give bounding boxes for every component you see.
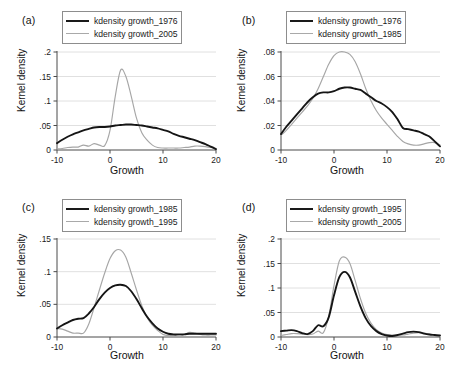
svg-text:-10: -10 bbox=[275, 342, 287, 352]
svg-text:.05: .05 bbox=[263, 308, 275, 318]
legend-line-swatch-light bbox=[290, 33, 313, 34]
svg-text:20: 20 bbox=[211, 342, 221, 352]
legend-label: kdensity growth_1985 bbox=[94, 204, 178, 214]
chart-panel-d: (d) kdensity growth_1995 kdensity growth… bbox=[224, 189, 448, 378]
svg-text:10: 10 bbox=[382, 155, 392, 165]
svg-text:.08: .08 bbox=[263, 47, 275, 57]
svg-text:.15: .15 bbox=[39, 234, 51, 244]
legend-label: kdensity growth_1995 bbox=[94, 217, 178, 227]
svg-text:0: 0 bbox=[46, 145, 51, 155]
svg-text:.02: .02 bbox=[263, 121, 275, 131]
legend-line-swatch-dark bbox=[66, 208, 89, 210]
svg-text:.05: .05 bbox=[39, 121, 51, 131]
legend-panel-c: kdensity growth_1985 kdensity growth_199… bbox=[62, 199, 182, 232]
svg-text:.2: .2 bbox=[268, 234, 275, 244]
svg-text:20: 20 bbox=[435, 155, 445, 165]
legend-line-swatch-light bbox=[66, 33, 89, 34]
svg-text:.1: .1 bbox=[44, 96, 51, 106]
svg-text:10: 10 bbox=[158, 155, 168, 165]
legend-entry: kdensity growth_1985 bbox=[66, 202, 177, 215]
plot-area-d: 0.05.1.15.2-1001020 bbox=[224, 233, 448, 353]
chart-panel-c: (c) kdensity growth_1985 kdensity growth… bbox=[0, 189, 224, 378]
legend-label: kdensity growth_1976 bbox=[318, 16, 402, 26]
plot-area-c: 0.05.1.15-1001020 bbox=[0, 233, 224, 353]
svg-text:.06: .06 bbox=[263, 72, 275, 82]
plot-area-a: 0.05.1.15.2-1001020 bbox=[0, 46, 224, 166]
svg-text:0: 0 bbox=[108, 342, 113, 352]
svg-text:0: 0 bbox=[332, 155, 337, 165]
plot-svg-c: 0.05.1.15-1001020 bbox=[0, 233, 224, 353]
legend-line-swatch-dark bbox=[290, 208, 313, 210]
chart-panel-b: (b) kdensity growth_1976 kdensity growth… bbox=[224, 0, 448, 189]
legend-entry: kdensity growth_1976 bbox=[290, 14, 401, 27]
svg-text:0: 0 bbox=[332, 342, 337, 352]
plot-svg-b: 0.02.04.06.08-1001020 bbox=[224, 46, 448, 166]
svg-text:10: 10 bbox=[382, 342, 392, 352]
svg-text:0: 0 bbox=[46, 332, 51, 342]
svg-text:.04: .04 bbox=[263, 96, 275, 106]
svg-text:.2: .2 bbox=[44, 47, 51, 57]
legend-panel-a: kdensity growth_1976 kdensity growth_200… bbox=[62, 11, 182, 44]
legend-label: kdensity growth_1985 bbox=[318, 29, 402, 39]
panel-label-d: (d) bbox=[242, 201, 255, 213]
legend-line-swatch-dark bbox=[66, 20, 89, 22]
svg-text:0: 0 bbox=[270, 145, 275, 155]
legend-label: kdensity growth_1976 bbox=[94, 16, 178, 26]
panel-label-c: (c) bbox=[22, 201, 35, 213]
legend-entry: kdensity growth_1995 bbox=[290, 202, 401, 215]
svg-text:0: 0 bbox=[108, 155, 113, 165]
legend-label: kdensity growth_2005 bbox=[318, 217, 402, 227]
plot-svg-d: 0.05.1.15.2-1001020 bbox=[224, 233, 448, 353]
svg-text:10: 10 bbox=[158, 342, 168, 352]
legend-panel-d: kdensity growth_1995 kdensity growth_200… bbox=[286, 199, 406, 232]
svg-text:.1: .1 bbox=[268, 283, 275, 293]
figure-panel-grid: (a) kdensity growth_1976 kdensity growth… bbox=[0, 0, 449, 378]
panel-label-b: (b) bbox=[242, 14, 255, 26]
svg-text:.15: .15 bbox=[263, 259, 275, 269]
svg-text:.1: .1 bbox=[44, 267, 51, 277]
legend-entry: kdensity growth_1985 bbox=[290, 27, 401, 40]
legend-line-swatch-dark bbox=[290, 20, 313, 22]
svg-text:0: 0 bbox=[270, 332, 275, 342]
panel-label-a: (a) bbox=[22, 14, 35, 26]
svg-text:.05: .05 bbox=[39, 299, 51, 309]
plot-svg-a: 0.05.1.15.2-1001020 bbox=[0, 46, 224, 166]
svg-text:20: 20 bbox=[211, 155, 221, 165]
legend-entry: kdensity growth_2005 bbox=[66, 27, 177, 40]
plot-area-b: 0.02.04.06.08-1001020 bbox=[224, 46, 448, 166]
legend-label: kdensity growth_1995 bbox=[318, 204, 402, 214]
chart-panel-a: (a) kdensity growth_1976 kdensity growth… bbox=[0, 0, 224, 189]
svg-text:-10: -10 bbox=[51, 342, 63, 352]
legend-panel-b: kdensity growth_1976 kdensity growth_198… bbox=[286, 11, 406, 44]
legend-entry: kdensity growth_1976 bbox=[66, 14, 177, 27]
svg-text:-10: -10 bbox=[275, 155, 287, 165]
svg-text:-10: -10 bbox=[51, 155, 63, 165]
svg-text:.15: .15 bbox=[39, 72, 51, 82]
svg-text:20: 20 bbox=[435, 342, 445, 352]
legend-entry: kdensity growth_2005 bbox=[290, 215, 401, 228]
legend-line-swatch-light bbox=[290, 221, 313, 222]
legend-entry: kdensity growth_1995 bbox=[66, 215, 177, 228]
legend-line-swatch-light bbox=[66, 221, 89, 222]
legend-label: kdensity growth_2005 bbox=[94, 29, 178, 39]
